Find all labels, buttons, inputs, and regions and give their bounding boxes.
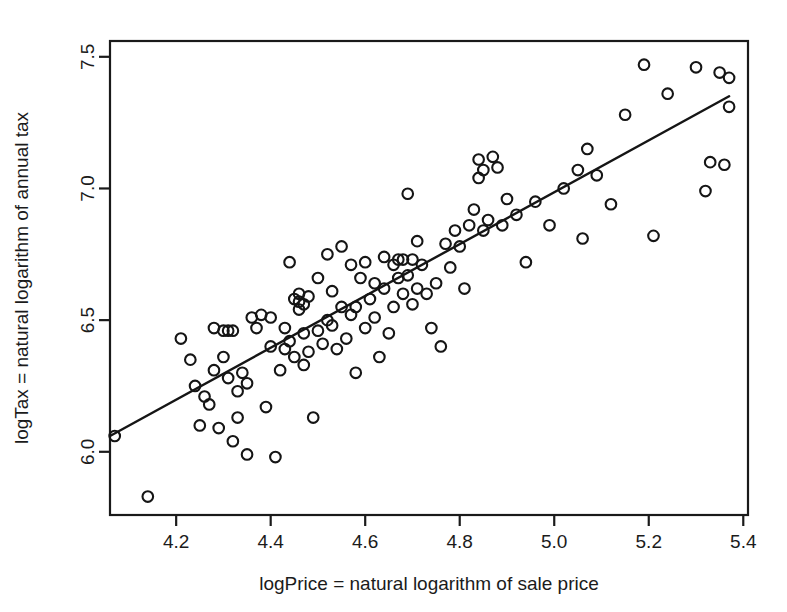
x-tick-label: 4.2 — [163, 531, 189, 552]
y-tick-label: 7.0 — [78, 175, 99, 201]
x-tick-label: 5.2 — [636, 531, 662, 552]
x-tick-label: 5.0 — [541, 531, 567, 552]
scatter-plot-figure: 4.24.44.64.85.05.25.4 6.06.57.07.5 logPr… — [0, 0, 787, 612]
y-axis-title: logTax = natural logarithm of annual tax — [11, 111, 32, 444]
figure-background — [0, 0, 787, 612]
y-tick-label: 6.0 — [78, 439, 99, 465]
x-tick-label: 4.6 — [352, 531, 378, 552]
x-tick-label: 4.4 — [257, 531, 284, 552]
y-tick-label: 6.5 — [78, 307, 99, 333]
y-tick-label: 7.5 — [78, 44, 99, 70]
x-axis-title: logPrice = natural logarithm of sale pri… — [259, 573, 599, 594]
x-tick-label: 4.8 — [447, 531, 473, 552]
x-tick-label: 5.4 — [730, 531, 757, 552]
plot-canvas: 4.24.44.64.85.05.25.4 6.06.57.07.5 logPr… — [0, 0, 787, 612]
